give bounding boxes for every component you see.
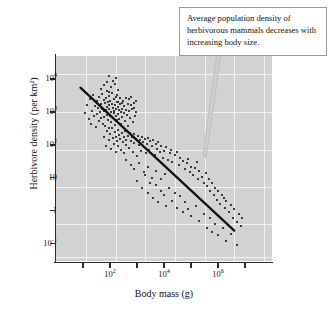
y-axis-tick-label: 10-1 [43, 239, 57, 248]
y-axis-title: Herbivore density (per km²) [28, 44, 39, 224]
x-axis-minor-tick [244, 263, 245, 268]
x-axis-minor-tick [190, 263, 191, 268]
x-axis-tick [109, 263, 110, 268]
x-axis-tick [217, 263, 218, 268]
y-axis-tick-label: 104 [45, 74, 57, 83]
x-axis-minor-tick [82, 263, 83, 268]
y-axis-tick-label: 10 [49, 173, 58, 182]
x-axis-minor-tick [136, 263, 137, 268]
chart-figure: 10410310210110-1102104106 Herbivore dens… [0, 0, 335, 319]
x-axis-tick-label: 106 [212, 270, 224, 279]
y-axis-tick-label: 103 [45, 107, 57, 116]
x-axis-tick-label: 102 [104, 270, 116, 279]
x-axis-tick [163, 263, 164, 268]
x-axis-title: Body mass (g) [56, 288, 272, 299]
annotation-callout: Average population density of herbivorou… [179, 7, 327, 56]
annotation-text: Average population density of herbivorou… [187, 13, 316, 47]
y-axis-tick-label: 102 [45, 140, 57, 149]
callout-pointer [180, 40, 270, 165]
x-axis-tick-label: 104 [158, 270, 170, 279]
y-axis-line [55, 54, 56, 263]
y-axis-tick-label: 1 [53, 206, 57, 215]
